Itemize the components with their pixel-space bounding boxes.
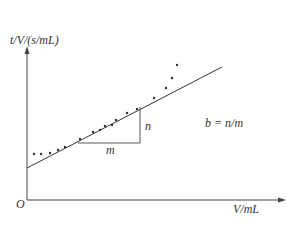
y-axis-arrow-icon	[25, 46, 30, 54]
y-axis-label: t/V/(s/mL)	[10, 33, 59, 47]
data-point	[33, 153, 35, 155]
m-label: m	[106, 143, 115, 157]
data-point	[136, 108, 138, 110]
data-point	[49, 152, 51, 154]
data-point	[40, 153, 42, 155]
data-point	[115, 119, 117, 121]
data-point	[176, 64, 178, 66]
data-point	[111, 124, 113, 126]
data-point	[92, 131, 94, 133]
x-axis-arrow-icon	[278, 198, 286, 203]
chart: t/V/(s/mL) V/mL O b = n/m m n	[0, 0, 306, 226]
data-point	[153, 97, 155, 99]
data-points	[33, 64, 178, 155]
fit-line	[27, 67, 222, 168]
data-point	[99, 129, 101, 131]
x-axis-label: V/mL	[233, 202, 259, 216]
data-point	[79, 138, 81, 140]
data-point	[126, 112, 128, 114]
data-point	[165, 87, 167, 89]
data-point	[64, 146, 66, 148]
n-label: n	[145, 119, 151, 133]
data-point	[171, 77, 173, 79]
data-point	[57, 149, 59, 151]
origin-label: O	[16, 197, 25, 211]
formula-annotation: b = n/m	[205, 116, 243, 130]
data-point	[104, 125, 106, 127]
